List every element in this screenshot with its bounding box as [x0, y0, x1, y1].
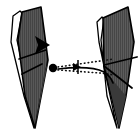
wing-trajectory-figure	[0, 0, 140, 134]
figure-root	[0, 0, 140, 134]
source-dot	[49, 64, 57, 72]
